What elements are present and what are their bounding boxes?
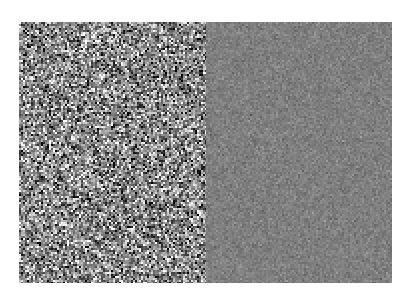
low-noise-panel (206, 22, 392, 283)
high-noise-image (19, 22, 206, 283)
low-noise-image (206, 22, 392, 283)
high-noise-panel (19, 22, 206, 283)
noise-comparison-figure (0, 0, 400, 292)
